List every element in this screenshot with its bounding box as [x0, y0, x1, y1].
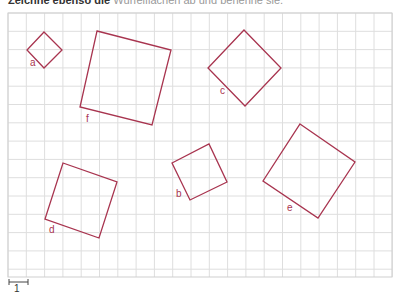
- scale-bar-label: 1: [14, 283, 20, 293]
- square-label: e: [287, 202, 293, 213]
- square-f: f: [80, 31, 171, 125]
- square-label: f: [86, 113, 89, 124]
- square-grid-figure: afcbed: [0, 0, 394, 293]
- square-label: b: [176, 188, 182, 199]
- square-e: e: [263, 124, 355, 218]
- square-label: a: [30, 57, 36, 68]
- square-label: d: [49, 224, 55, 235]
- grid-border: [8, 13, 392, 277]
- square-b: b: [172, 144, 227, 200]
- square-outline: [80, 31, 171, 125]
- grid-paper: [8, 13, 392, 277]
- square-label: c: [220, 85, 225, 96]
- square-outline: [263, 124, 355, 218]
